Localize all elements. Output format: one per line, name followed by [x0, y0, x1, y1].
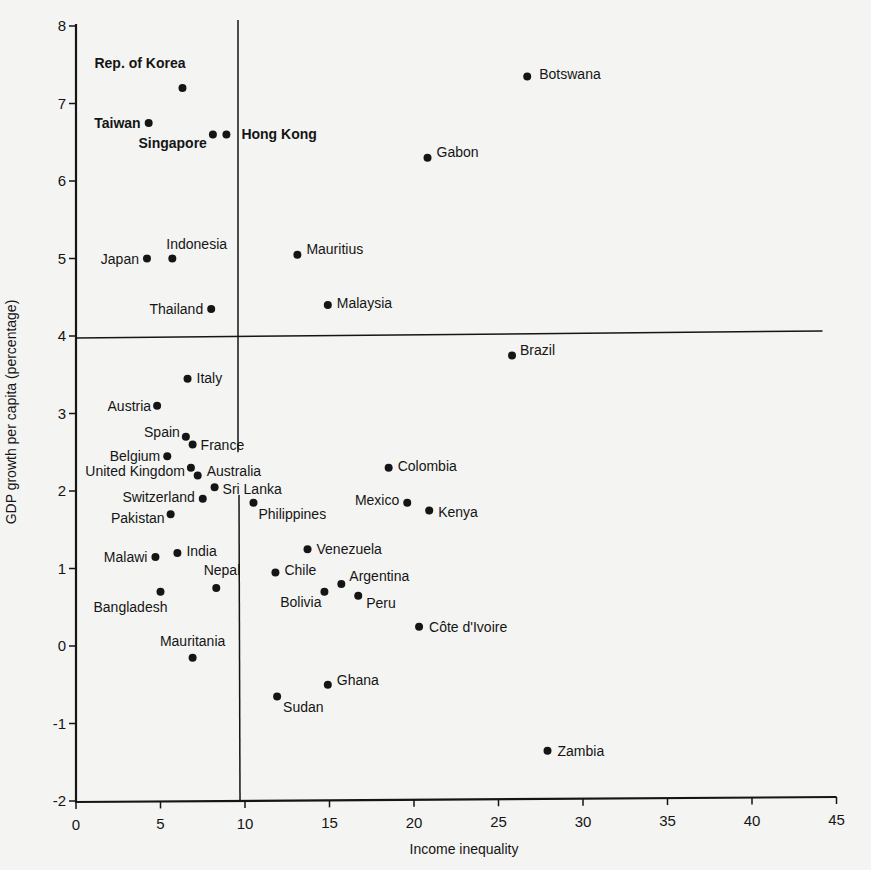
point-label: Mauritius: [306, 241, 363, 257]
point-marker: [167, 510, 175, 518]
data-point: Bangladesh: [94, 588, 168, 615]
data-point: Sudan: [273, 692, 323, 715]
point-marker: [271, 568, 279, 576]
point-label: Sri Lanka: [223, 481, 282, 497]
data-point: Peru: [354, 592, 396, 611]
point-label: Kenya: [438, 504, 478, 520]
x-tick-label: 30: [575, 813, 592, 830]
point-label: Italy: [197, 370, 223, 386]
point-label: Spain: [144, 424, 180, 440]
y-tick-label: -1: [53, 715, 66, 732]
point-marker: [293, 251, 301, 259]
y-tick-label: 4: [58, 327, 66, 344]
point-label: Brazil: [520, 342, 555, 358]
data-point: Mexico: [355, 492, 411, 508]
y-tick-label: 1: [58, 560, 66, 577]
point-marker: [199, 495, 207, 503]
point-label: Hong Kong: [241, 126, 316, 142]
y-tick-label: 6: [58, 172, 66, 189]
point-marker: [337, 580, 345, 588]
data-point: Australia: [194, 463, 262, 480]
x-tick-label: 40: [744, 812, 761, 829]
point-marker: [189, 654, 197, 662]
point-marker: [184, 375, 192, 383]
point-label: Colombia: [398, 458, 457, 474]
point-marker: [425, 506, 433, 514]
data-point: Brazil: [508, 342, 555, 359]
point-label: Singapore: [138, 135, 207, 151]
data-point: Austria: [108, 398, 162, 414]
data-point: Colombia: [385, 458, 457, 474]
point-marker: [145, 119, 153, 127]
data-point: Philippines: [249, 499, 326, 522]
data-point: Zambia: [544, 743, 605, 759]
x-tick-label: 10: [237, 815, 254, 832]
data-point: Venezuela: [304, 541, 383, 557]
data-point: Nepal: [204, 562, 241, 592]
data-point: Botswana: [523, 66, 601, 82]
y-tick-label: 2: [58, 482, 66, 499]
data-point: Pakistan: [111, 510, 175, 526]
point-label: Nepal: [204, 562, 241, 578]
data-point: Mauritania: [160, 633, 226, 662]
point-label: Ghana: [337, 672, 379, 688]
data-point: Hong Kong: [222, 126, 316, 142]
x-axis-line: [75, 797, 837, 802]
point-label: Argentina: [349, 568, 409, 584]
point-marker: [207, 305, 215, 313]
point-label: India: [186, 543, 217, 559]
data-point: Gabon: [424, 144, 479, 162]
data-point: Chile: [271, 562, 316, 578]
point-label: Malawi: [104, 549, 148, 565]
point-marker: [151, 553, 159, 561]
x-tick-label: 15: [321, 814, 338, 831]
point-label: France: [201, 437, 245, 453]
x-tick-label: 20: [406, 814, 423, 831]
point-marker: [163, 452, 171, 460]
point-label: Switzerland: [122, 489, 194, 505]
point-label: Mauritania: [160, 633, 226, 649]
point-label: Malaysia: [337, 295, 392, 311]
data-point: Taiwan: [94, 115, 152, 131]
point-marker: [354, 592, 362, 600]
data-point: Indonesia: [166, 236, 227, 263]
y-tick-label: 7: [58, 95, 66, 112]
data-point: Singapore: [138, 131, 216, 151]
data-point: Belgium: [110, 448, 172, 464]
point-marker: [249, 499, 257, 507]
data-point: Bolivia: [280, 588, 328, 610]
point-label: Belgium: [110, 448, 161, 464]
point-marker: [173, 549, 181, 557]
point-marker: [194, 472, 202, 480]
data-points: Rep. of KoreaTaiwanSingaporeHong KongBot…: [85, 55, 604, 759]
point-label: Australia: [207, 463, 262, 479]
data-point: Ghana: [324, 672, 379, 689]
point-label: Chile: [284, 562, 316, 578]
data-point: France: [189, 437, 245, 453]
point-label: Peru: [366, 595, 396, 611]
x-tick-label: 35: [659, 812, 676, 829]
point-label: Côte d'Ivoire: [429, 619, 507, 635]
point-marker: [209, 131, 217, 139]
y-tick-label: 8: [58, 17, 66, 34]
data-point: Rep. of Korea: [94, 55, 186, 92]
point-marker: [143, 255, 151, 263]
point-marker: [168, 255, 176, 263]
x-tick-label: 0: [72, 816, 80, 833]
data-point: Italy: [184, 370, 223, 386]
data-point: Mauritius: [293, 241, 363, 259]
data-point: United Kingdom: [85, 463, 195, 479]
scatter-chart: -2-1012345678051015202530354045 Rep. of …: [0, 0, 871, 870]
data-point: Japan: [101, 251, 151, 267]
x-tick-label: 45: [828, 811, 845, 828]
point-label: Venezuela: [317, 541, 383, 557]
point-marker: [508, 351, 516, 359]
point-marker: [424, 154, 432, 162]
point-label: United Kingdom: [85, 463, 185, 479]
point-label: Botswana: [539, 66, 601, 82]
data-point: Côte d'Ivoire: [415, 619, 507, 635]
data-point: India: [173, 543, 217, 559]
point-label: Bangladesh: [94, 599, 168, 615]
data-point: Malawi: [104, 549, 160, 565]
y-tick-label: 5: [58, 250, 66, 267]
